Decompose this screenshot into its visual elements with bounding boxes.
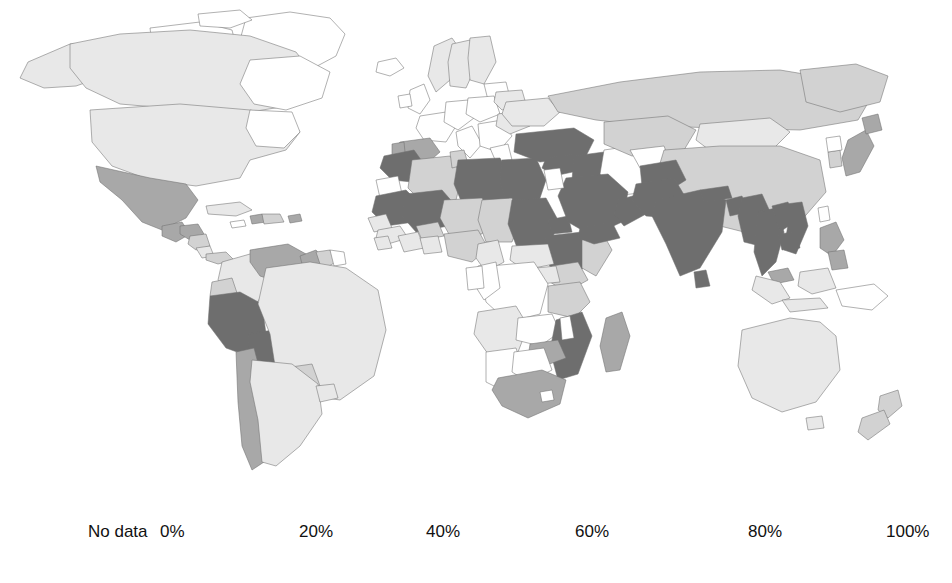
region-sri-lanka[interactable] [694,270,710,288]
legend-tick-labels: No data 0% 20% 40% 60% 80% 100% [0,522,952,544]
region-ireland[interactable] [398,94,412,108]
region-papua-new-guinea[interactable] [836,284,888,310]
region-iceland[interactable] [376,58,404,76]
region-north-korea[interactable] [826,136,842,152]
region-indonesia-borneo[interactable] [798,268,836,294]
legend-tick-0: 0% [160,522,185,542]
region-tanzania[interactable] [548,282,590,318]
region-puerto-rico[interactable] [288,214,302,223]
legend-no-data-label: No data [88,522,148,542]
region-madagascar[interactable] [600,312,630,372]
region-india[interactable] [652,190,726,276]
legend-tick-100: 100% [886,522,929,542]
region-philippines-2[interactable] [828,250,848,270]
choropleth-map [0,0,952,500]
region-ghana[interactable] [420,236,442,254]
region-taiwan[interactable] [818,206,830,222]
region-dominican-republic[interactable] [262,214,284,224]
region-lesotho[interactable] [540,390,554,402]
region-japan-north[interactable] [862,114,882,134]
map-svg [0,0,952,500]
region-tasmania[interactable] [806,416,824,430]
region-ukraine[interactable] [502,98,560,126]
legend-tick-20: 20% [299,522,333,542]
legend-tick-80: 80% [748,522,782,542]
region-new-zealand-south[interactable] [858,410,890,440]
region-jamaica[interactable] [230,220,246,228]
region-australia[interactable] [738,318,840,412]
map-legend: No data 0% 20% 40% 60% 80% 100% [0,500,952,583]
region-gabon[interactable] [466,266,484,290]
region-south-korea[interactable] [828,150,842,168]
region-finland[interactable] [468,36,496,84]
region-japan[interactable] [842,130,874,176]
region-cuba[interactable] [206,202,252,216]
legend-tick-40: 40% [426,522,460,542]
region-south-africa[interactable] [492,370,566,418]
world-map-figure: No data 0% 20% 40% 60% 80% 100% [0,0,952,583]
region-united-kingdom[interactable] [408,84,430,114]
region-indonesia-java[interactable] [782,298,828,312]
region-cambodia[interactable] [778,232,800,250]
legend-tick-60: 60% [575,522,609,542]
